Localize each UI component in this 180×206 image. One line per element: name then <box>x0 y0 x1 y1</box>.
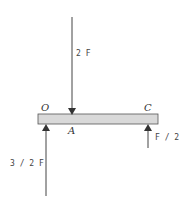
force-label-F2: F / 2 <box>155 133 179 142</box>
arrowhead-up-icon <box>42 124 50 131</box>
force-arrow-F2 <box>144 124 152 148</box>
force-label-2F: 2 F <box>76 49 91 58</box>
point-label-A: A <box>67 125 75 136</box>
arrowhead-up-icon <box>144 124 152 131</box>
free-body-diagram: O A C 2 F 3 / 2 F F / 2 <box>0 0 180 206</box>
force-arrow-2F <box>68 17 76 115</box>
beam <box>38 114 158 124</box>
point-label-O: O <box>41 102 49 113</box>
force-label-3-2F: 3 / 2 F <box>10 159 44 168</box>
point-label-C: C <box>144 102 152 113</box>
